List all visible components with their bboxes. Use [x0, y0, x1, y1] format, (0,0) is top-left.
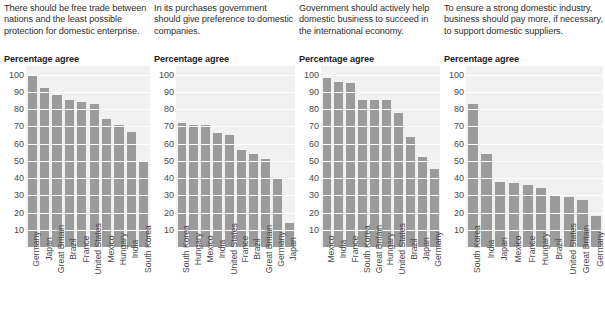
x-label-slot: Japan	[493, 247, 507, 309]
bar-slot	[200, 66, 212, 247]
bar[interactable]	[249, 154, 258, 247]
gridline	[466, 109, 603, 110]
bar-slot	[271, 66, 283, 247]
bar-slot	[236, 66, 248, 247]
panel-4-plot	[466, 66, 603, 247]
bar-slot	[188, 66, 200, 247]
bar-slot	[357, 66, 369, 247]
x-label-slot: Hungary	[188, 247, 200, 309]
gridline	[466, 195, 603, 196]
panel-3-axis-title: Percentage agree	[299, 52, 440, 66]
panel-1-y-tick-30: 30	[14, 191, 24, 200]
bar-slot	[100, 66, 112, 247]
gridline	[26, 126, 150, 127]
bar-slot	[113, 66, 125, 247]
bar-slot	[76, 66, 88, 247]
bar-slot	[333, 66, 345, 247]
x-label-slot: South Korea	[466, 247, 480, 309]
gridline	[321, 178, 440, 179]
x-label-slot: Germany	[589, 247, 603, 309]
gridline	[321, 195, 440, 196]
x-label-slot: Brazil	[63, 247, 75, 309]
gridline	[176, 126, 295, 127]
panel-2-y-axis: 100908070605040302010	[154, 66, 176, 247]
bar-slot	[321, 66, 333, 247]
bar-slot	[259, 66, 271, 247]
gridline	[466, 92, 603, 93]
x-axis-label: Germany	[596, 231, 605, 266]
bar-slot	[466, 66, 480, 247]
bar[interactable]	[77, 102, 86, 247]
bar[interactable]	[334, 82, 343, 247]
bar-slot	[404, 66, 416, 247]
bar-slot	[416, 66, 428, 247]
panel-1-y-tick-40: 40	[14, 174, 24, 183]
x-label-slot: France	[236, 247, 248, 309]
gridline	[466, 213, 603, 214]
x-label-slot: Great Britain	[51, 247, 63, 309]
bar[interactable]	[40, 88, 49, 247]
gridline	[26, 230, 150, 231]
bar[interactable]	[102, 119, 111, 247]
panel-3-prompt: Government should actively help domestic…	[299, 0, 440, 52]
panel-2-y-tick-70: 70	[164, 122, 174, 131]
x-label-slot: Germany	[428, 247, 440, 309]
gridline	[26, 144, 150, 145]
panel-3-y-tick-90: 90	[309, 87, 319, 96]
panel-3-y-tick-10: 10	[309, 225, 319, 234]
gridline	[26, 178, 150, 179]
panel-2-prompt: In its purchases government should give …	[154, 0, 295, 52]
panel-3-y-tick-30: 30	[309, 191, 319, 200]
x-label-slot: Japan	[283, 247, 295, 309]
x-label-slot: United States	[562, 247, 576, 309]
bar-slot	[176, 66, 188, 247]
bar[interactable]	[65, 100, 74, 247]
panel-3-y-axis: 100908070605040302010	[299, 66, 321, 247]
panel-4-y-tick-90: 90	[454, 87, 464, 96]
bar-slot	[428, 66, 440, 247]
panel-3-y-tick-20: 20	[309, 208, 319, 217]
panel-2-y-tick-100: 100	[159, 70, 174, 79]
gridline	[321, 75, 440, 76]
x-label-slot: South Korea	[176, 247, 188, 309]
panel-2-y-tick-10: 10	[164, 225, 174, 234]
gridline	[26, 75, 150, 76]
gridline	[466, 161, 603, 162]
panel-1-y-tick-50: 50	[14, 156, 24, 165]
panel-3-plot	[321, 66, 440, 247]
panel-4-bars	[466, 66, 603, 247]
panel-4-y-tick-40: 40	[454, 174, 464, 183]
bar-slot	[589, 66, 603, 247]
bar-slot	[283, 66, 295, 247]
bar-slot	[535, 66, 549, 247]
panel-4-y-tick-80: 80	[454, 105, 464, 114]
panel-4-y-tick-10: 10	[454, 225, 464, 234]
panel-3-y-tick-80: 80	[309, 105, 319, 114]
x-label-slot: India	[125, 247, 137, 309]
bar[interactable]	[323, 78, 332, 247]
x-label-slot: Hungary	[535, 247, 549, 309]
x-label-slot: United States	[88, 247, 100, 309]
gridline	[321, 144, 440, 145]
x-label-slot: Brazil	[404, 247, 416, 309]
bar-slot	[26, 66, 38, 247]
bar[interactable]	[418, 157, 427, 247]
bar[interactable]	[481, 154, 491, 247]
x-label-slot: Great Britain	[259, 247, 271, 309]
bar-slot	[63, 66, 75, 247]
x-label-slot: France	[345, 247, 357, 309]
gridline	[466, 178, 603, 179]
bar[interactable]	[346, 83, 355, 247]
panel-2-y-tick-20: 20	[164, 208, 174, 217]
gridline	[321, 92, 440, 93]
panel-4-axis-title: Percentage agree	[444, 52, 603, 66]
gridline	[176, 144, 295, 145]
panel-4-y-tick-70: 70	[454, 122, 464, 131]
panel-1-y-tick-100: 100	[9, 70, 24, 79]
bar-slot	[381, 66, 393, 247]
x-label-slot: Mexico	[507, 247, 521, 309]
panel-2-y-tick-90: 90	[164, 87, 174, 96]
panel-1-x-axis-labels: GermanyJapanGreat BritainBrazilFranceUni…	[26, 247, 150, 309]
bar-slot	[369, 66, 381, 247]
